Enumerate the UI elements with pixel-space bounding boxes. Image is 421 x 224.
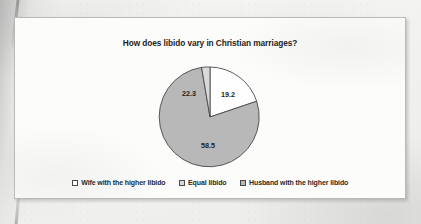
legend-item-equal[interactable]: Equal libido (179, 179, 227, 186)
legend-swatch-icon-equal (179, 180, 185, 186)
figure-frame: How does libido vary in Christian marria… (14, 17, 406, 199)
legend-label-wife: Wife with the higher libido (81, 179, 165, 186)
chart-title: How does libido vary in Christian marria… (15, 38, 405, 48)
legend-swatch-icon-husband (240, 180, 246, 186)
pie-label-wife: 19.2 (221, 90, 235, 99)
legend-label-husband: Husband with the higher libido (249, 179, 348, 186)
pie-chart-svg: 19.2 58.5 22.3 (158, 65, 262, 169)
legend-swatch-icon-wife (72, 180, 78, 186)
chart-legend: Wife with the higher libido Equal libido… (15, 179, 405, 186)
legend-item-wife[interactable]: Wife with the higher libido (72, 179, 166, 186)
legend-label-equal: Equal libido (188, 179, 226, 186)
legend-item-husband[interactable]: Husband with the higher libido (240, 179, 349, 186)
pie-label-husband: 58.5 (201, 141, 215, 150)
pie-label-equal: 22.3 (182, 89, 196, 98)
pie-chart: 19.2 58.5 22.3 (158, 65, 262, 169)
